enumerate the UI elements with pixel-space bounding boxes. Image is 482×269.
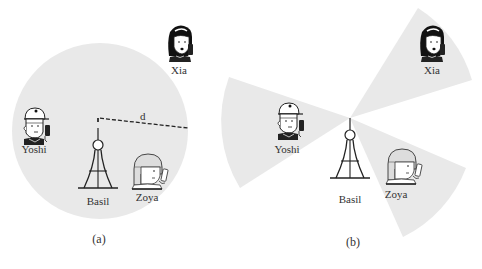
user-label-zoya: Zoya [385,188,408,200]
caption-b: (b) [346,235,360,249]
user-label-xia: Xia [424,64,440,76]
user-label-yoshi: Yoshi [21,143,46,155]
user-label-zoya: Zoya [136,191,159,203]
panel-a: d Basil Yoshi Zoya Xia (a) [12,26,193,246]
user-label-yoshi: Yoshi [274,143,299,155]
figure-canvas: d Basil Yoshi Zoya Xia (a) Bas [0,0,482,269]
tower-label-basil: Basil [339,193,362,205]
panel-b: Basil Yoshi Xia Zoya (b) [221,8,472,249]
beam-sector-xia [350,8,472,118]
caption-a: (a) [92,232,105,246]
person-xia-icon [168,26,193,62]
tower-label-basil: Basil [87,195,110,207]
user-label-xia: Xia [171,64,187,76]
distance-label: d [140,110,146,122]
